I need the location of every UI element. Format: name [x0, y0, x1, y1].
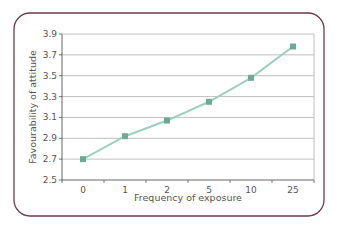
- data-point-marker: [122, 133, 128, 139]
- data-point-marker: [206, 99, 212, 105]
- data-point-marker: [290, 44, 296, 50]
- y-tick-label: 3.3: [43, 92, 57, 102]
- x-tick-label: 25: [287, 185, 298, 195]
- y-tick-label: 3.5: [43, 71, 57, 81]
- x-axis-title: Frequency of exposure: [134, 192, 242, 203]
- line-chart: 2.52.72.93.13.33.53.73.9 01251025 Freque…: [0, 0, 338, 237]
- y-tick-label: 3.1: [43, 112, 57, 122]
- data-point-marker: [80, 156, 86, 162]
- x-tick-label: 0: [80, 185, 86, 195]
- y-tick-label: 2.7: [43, 154, 57, 164]
- y-tick-label: 3.9: [43, 29, 58, 39]
- y-tick-label: 2.5: [43, 175, 57, 185]
- x-tick-label: 10: [245, 185, 257, 195]
- x-tick-label: 1: [122, 185, 128, 195]
- y-axis-title: Favourability of attitude: [27, 50, 38, 164]
- y-tick-label: 3.7: [43, 50, 57, 60]
- data-point-marker: [164, 118, 170, 124]
- data-point-marker: [248, 75, 254, 81]
- y-tick-label: 2.9: [43, 133, 58, 143]
